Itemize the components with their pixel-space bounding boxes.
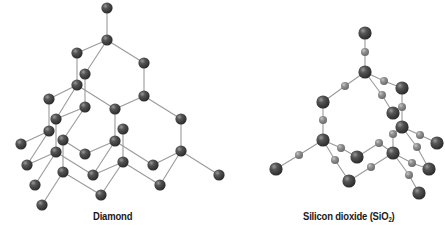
- silicon-atom: [358, 65, 371, 78]
- oxygen-atom: [319, 116, 327, 124]
- oxygen-atom: [341, 82, 349, 90]
- carbon-atom: [57, 134, 68, 145]
- silicon-atom: [412, 186, 425, 199]
- carbon-atom: [57, 166, 68, 177]
- carbon-atom: [109, 135, 120, 146]
- silicon-atom: [422, 162, 435, 175]
- oxygen-atom: [405, 171, 413, 179]
- oxygen-atom: [380, 77, 388, 85]
- oxygen-atom: [413, 143, 421, 151]
- carbon-atom: [138, 90, 149, 101]
- silicon-dioxide-caption: Silicon dioxide (SiO2): [303, 210, 395, 223]
- carbon-atom: [79, 148, 90, 159]
- carbon-atom: [147, 159, 158, 170]
- carbon-atom: [117, 123, 128, 134]
- carbon-atom: [175, 145, 186, 156]
- bond: [181, 151, 219, 175]
- carbon-atom: [87, 169, 98, 180]
- silicon-dioxide-atoms: [269, 26, 443, 199]
- silicon-dioxide-caption-text: Silicon dioxide (SiO: [303, 210, 388, 222]
- carbon-atom: [29, 179, 40, 190]
- carbon-atom: [117, 156, 128, 167]
- carbon-atom: [109, 103, 120, 114]
- carbon-atom: [138, 57, 149, 68]
- silicon-atom: [316, 95, 329, 108]
- oxygen-atom: [375, 139, 383, 147]
- carbon-atom: [36, 199, 47, 210]
- diamond-carbon-atoms: [15, 2, 224, 210]
- carbon-atom: [95, 189, 106, 200]
- oxygen-atom: [416, 131, 424, 139]
- carbon-atom: [50, 113, 61, 124]
- diamond-caption-text: Diamond: [93, 210, 132, 222]
- carbon-atom: [154, 179, 165, 190]
- oxygen-atom: [378, 91, 386, 99]
- carbon-atom: [101, 2, 112, 13]
- bond: [107, 40, 144, 63]
- bond: [42, 172, 63, 205]
- crystal-structure-figure: [0, 0, 445, 233]
- oxygen-atom: [331, 156, 339, 164]
- carbon-atom: [213, 169, 224, 180]
- carbon-atom: [50, 146, 61, 157]
- silicon-atom: [395, 81, 408, 94]
- silicon-atom: [386, 146, 399, 159]
- caption-suffix: ): [392, 210, 395, 222]
- silicon-atom: [358, 26, 371, 39]
- oxygen-atom: [295, 151, 303, 159]
- carbon-atom: [79, 68, 90, 79]
- oxygen-atom: [367, 163, 375, 171]
- oxygen-atom: [361, 48, 369, 56]
- oxygen-atom: [408, 159, 416, 167]
- silicon-dioxide-structure: [269, 26, 443, 199]
- diamond-caption: Diamond: [93, 210, 132, 222]
- carbon-atom: [43, 93, 54, 104]
- oxygen-atom: [337, 144, 345, 152]
- diamond-structure: [15, 2, 224, 210]
- silicon-dioxide-bonds: [276, 33, 437, 193]
- carbon-atom: [79, 101, 90, 112]
- silicon-atom: [395, 120, 408, 133]
- bond: [144, 96, 181, 119]
- silicon-atom: [269, 162, 282, 175]
- carbon-atom: [21, 159, 32, 170]
- carbon-atom: [71, 47, 82, 58]
- silicon-atom: [316, 133, 329, 146]
- oxygen-atom: [389, 130, 397, 138]
- silicon-atom: [350, 150, 363, 163]
- carbon-atom: [71, 79, 82, 90]
- carbon-atom: [175, 113, 186, 124]
- silicon-atom: [430, 136, 443, 149]
- silicon-atom: [386, 106, 399, 119]
- carbon-atom: [43, 125, 54, 136]
- oxygen-atom: [398, 103, 406, 111]
- silicon-atom: [342, 174, 355, 187]
- carbon-atom: [15, 138, 26, 149]
- carbon-atom: [101, 34, 112, 45]
